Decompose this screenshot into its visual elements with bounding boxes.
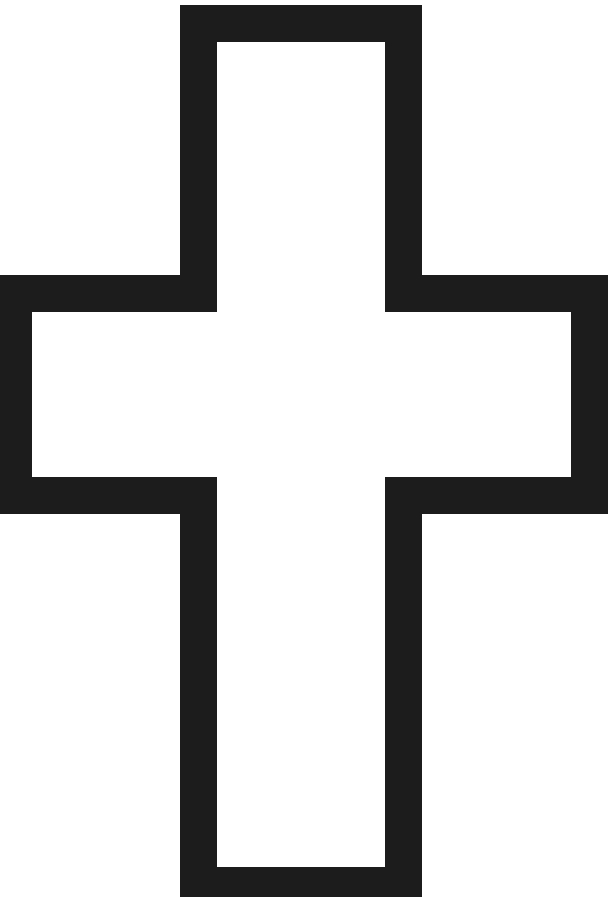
figure-canvas [0,0,612,897]
cross-outline-icon [0,0,612,897]
